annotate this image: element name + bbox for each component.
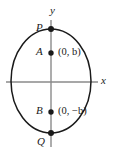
point-b-coordinate-label: (0, −b) [58, 106, 87, 117]
point-q-dot [48, 130, 54, 136]
point-q-label: Q [37, 136, 45, 147]
ellipse-diagram: y x P A (0, b) B (0, −b) Q [0, 0, 116, 159]
point-p-label: P [36, 22, 43, 33]
diagram-canvas [0, 0, 116, 159]
point-a-coordinate-label: (0, b) [58, 47, 81, 58]
point-b-label: B [36, 105, 43, 116]
point-b-dot [48, 109, 53, 114]
y-axis-label: y [50, 5, 55, 16]
point-a-dot [48, 50, 53, 55]
point-a-label: A [36, 46, 43, 57]
point-p-dot [48, 26, 54, 32]
x-axis-label: x [101, 75, 106, 86]
